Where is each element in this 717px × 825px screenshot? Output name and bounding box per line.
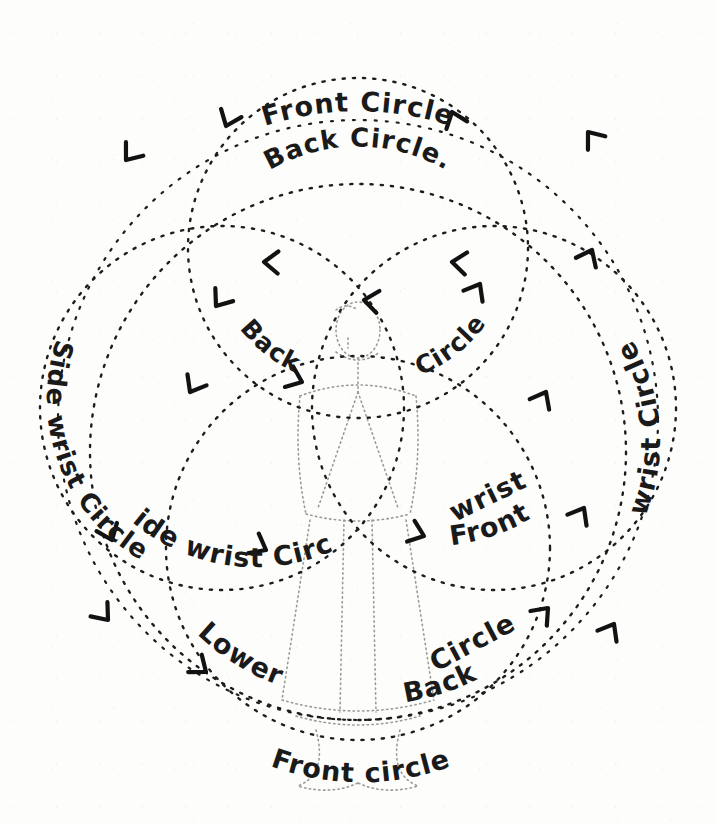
arrow-head-icon [362, 289, 379, 313]
label-back-circle-top: Back Circle. [259, 122, 458, 175]
arrow-head-icon [207, 288, 233, 312]
arrow-head-icon [567, 503, 593, 526]
direction-arrows [91, 108, 624, 680]
arrow-head-icon [579, 125, 605, 150]
arrow-head-icon [407, 521, 428, 546]
diagram-labels: Front Circle Back Circle. Back Circle Si… [0, 0, 666, 788]
label-front-circle-bottom: Front circle [268, 742, 454, 788]
circle-bottom-front-circle [90, 184, 626, 720]
label-circle-middle: Circle [410, 309, 491, 382]
circle-left-side-wrist [40, 226, 404, 590]
arrow-head-icon [451, 251, 467, 274]
arrow-head-icon [188, 655, 213, 681]
circle-outer-front-circle [58, 120, 658, 720]
label-side-wrist-circle-lower: Side wrist Circle [0, 0, 337, 573]
arrow-head-icon [117, 142, 143, 167]
arrow-head-icon [597, 619, 623, 642]
diagram-canvas: Front Circle Back Circle. Back Circle Si… [0, 0, 717, 825]
label-front-wrist-circle-right: wrist Circle [610, 336, 667, 519]
label-side-wrist-circle-side: Side wrist Circle [41, 337, 154, 566]
arrow-head-icon [530, 387, 556, 410]
arrow-head-icon [91, 602, 117, 627]
arrow-head-icon [530, 601, 556, 626]
arrow-head-icon [463, 279, 489, 302]
arrow-head-icon [216, 109, 242, 130]
circle-diagram: Front Circle Back Circle. Back Circle Si… [0, 0, 717, 825]
arrow-head-icon [264, 251, 279, 273]
circle-paths [40, 78, 676, 740]
arrow-head-icon [576, 245, 602, 267]
label-back-middle: Back [235, 313, 306, 378]
arrow-head-icon [180, 374, 206, 397]
